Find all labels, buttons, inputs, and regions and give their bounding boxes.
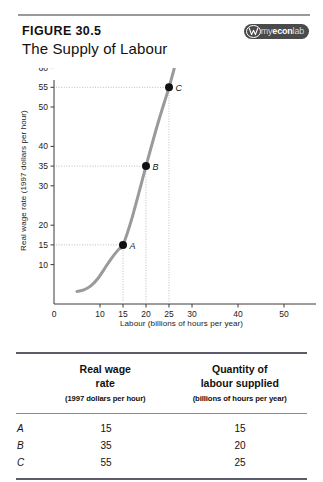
- curve-label-ls: LS: [179, 68, 190, 69]
- cell-real-wage-rate: 35: [39, 440, 173, 451]
- cell-real-wage-rate: 55: [39, 457, 173, 468]
- y-axis-label: Real wage rate (1997 dollars per hour): [19, 86, 28, 276]
- row-key: C: [16, 457, 39, 468]
- x-axis-tick-label: 10: [95, 309, 105, 319]
- y-axis-tick-label: 55: [39, 82, 49, 92]
- data-point-label-a: A: [129, 241, 136, 251]
- data-point-b[interactable]: [142, 162, 150, 170]
- labour-supply-curve[interactable]: [77, 68, 175, 291]
- badge-text-lab: lab: [293, 26, 304, 36]
- figure-number: FIGURE 30.5: [22, 24, 101, 38]
- cell-real-wage-rate: 15: [39, 423, 173, 434]
- y-axis-tick-label: 35: [39, 161, 49, 171]
- supply-of-labour-plot: 101520303540505560010152025304050LSABC: [0, 68, 323, 336]
- table-header-key-spacer: [16, 363, 38, 406]
- x-axis-tick-label: 15: [118, 309, 128, 319]
- x-axis-tick-label: 30: [187, 309, 197, 319]
- table-row: B 35 20: [16, 437, 307, 454]
- data-point-a[interactable]: [119, 241, 127, 249]
- data-point-label-b: B: [153, 162, 159, 172]
- y-axis-tick-label: 10: [39, 260, 49, 270]
- myeconlab-badge[interactable]: myeconlab: [244, 24, 309, 39]
- column-header-real-wage-rate: Real wage rate (1997 dollars per hour): [38, 363, 173, 406]
- column-header-units: (1997 dollars per hour): [38, 392, 173, 406]
- table-bottom-rule: [16, 478, 307, 480]
- myeconlab-w-mark-icon: [246, 25, 261, 38]
- column-header-units: (billions of hours per year): [173, 392, 308, 406]
- cell-quantity-supplied: 15: [173, 423, 307, 434]
- column-header-line2: labour supplied: [201, 377, 279, 389]
- y-axis-tick-label: 20: [39, 220, 49, 230]
- x-axis-label: Labour (billions of hours per year): [120, 319, 243, 328]
- x-axis-tick-label: 50: [279, 309, 289, 319]
- chart-area: Real wage rate (1997 dollars per hour) L…: [0, 68, 323, 336]
- x-axis-tick-label: 40: [233, 309, 243, 319]
- column-header-quantity-supplied: Quantity of labour supplied (billions of…: [173, 363, 308, 406]
- data-point-label-c: C: [176, 83, 183, 93]
- y-axis-tick-label: 40: [39, 141, 49, 151]
- figure-title: The Supply of Labour: [22, 40, 167, 57]
- badge-text-my: my: [261, 26, 273, 36]
- table-row: C 55 25: [16, 454, 307, 471]
- table-body: A 15 15 B 35 20 C 55 25: [16, 414, 307, 478]
- x-axis-tick-label: 0: [52, 309, 57, 319]
- y-axis-tick-label: 15: [39, 240, 49, 250]
- badge-text-econ: econ: [272, 26, 292, 36]
- cell-quantity-supplied: 20: [173, 440, 307, 451]
- x-axis-tick-label: 20: [141, 309, 151, 319]
- column-header-line1: Real wage: [80, 363, 131, 375]
- row-key: A: [16, 423, 39, 434]
- header-divider: [18, 14, 310, 16]
- data-point-c[interactable]: [165, 83, 173, 91]
- cell-quantity-supplied: 25: [173, 457, 307, 468]
- myeconlab-label: myeconlab: [261, 27, 304, 36]
- x-axis-tick-label: 25: [164, 309, 174, 319]
- figure-card: FIGURE 30.5 The Supply of Labour myeconl…: [0, 0, 323, 482]
- data-table: Real wage rate (1997 dollars per hour) Q…: [16, 352, 307, 480]
- y-axis-tick-label: 30: [39, 181, 49, 191]
- y-axis-tick-label: 60: [39, 68, 49, 73]
- row-key: B: [16, 440, 39, 451]
- column-header-line2: rate: [96, 377, 115, 389]
- column-header-line1: Quantity of: [212, 363, 267, 375]
- table-row: A 15 15: [16, 420, 307, 437]
- table-header-row: Real wage rate (1997 dollars per hour) Q…: [16, 354, 307, 413]
- y-axis-tick-label: 50: [39, 102, 49, 112]
